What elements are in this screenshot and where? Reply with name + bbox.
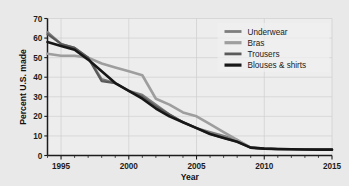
legend-label: Trousers (248, 50, 280, 59)
x-tick-label: 2010 (255, 162, 274, 171)
legend-label: Underwear (248, 28, 288, 37)
chart-legend: UnderwearBrasTrousersBlouses & shirts (218, 23, 330, 72)
chart-canvas: 01020304050607019952000200520102015 Year… (0, 0, 349, 186)
y-tick-label: 50 (33, 54, 43, 63)
x-tick-label: 2005 (187, 162, 206, 171)
y-tick-label: 30 (33, 93, 43, 102)
legend-label: Blouses & shirts (248, 61, 307, 70)
line-chart: 01020304050607019952000200520102015 Year… (0, 0, 349, 186)
x-tick-label: 1995 (52, 162, 71, 171)
x-tick-label: 2000 (120, 162, 139, 171)
x-tick-label: 2015 (323, 162, 342, 171)
legend-label: Bras (248, 39, 265, 48)
y-tick-label: 40 (33, 73, 43, 82)
y-tick-label: 60 (33, 34, 43, 43)
y-tick-label: 0 (38, 152, 43, 161)
y-tick-label: 10 (33, 132, 43, 141)
y-tick-label: 70 (33, 15, 43, 24)
y-axis-title: Percent U.S. made (18, 49, 28, 125)
x-axis-title: Year (181, 172, 200, 182)
y-tick-label: 20 (33, 112, 43, 121)
